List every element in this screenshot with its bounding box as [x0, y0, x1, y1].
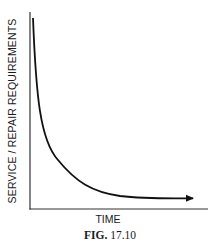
- caption-number: 17.10: [110, 229, 136, 241]
- x-axis-label: TIME: [95, 213, 120, 225]
- figure: SERVICE / REPAIR REQUIREMENTS TIME FIG. …: [0, 0, 219, 246]
- figure-caption: FIG. 17.10: [84, 229, 136, 241]
- decay-curve: [33, 18, 193, 198]
- caption-prefix: FIG.: [84, 229, 107, 241]
- y-axis-label: SERVICE / REPAIR REQUIREMENTS: [6, 19, 18, 204]
- chart-plot: [0, 0, 219, 246]
